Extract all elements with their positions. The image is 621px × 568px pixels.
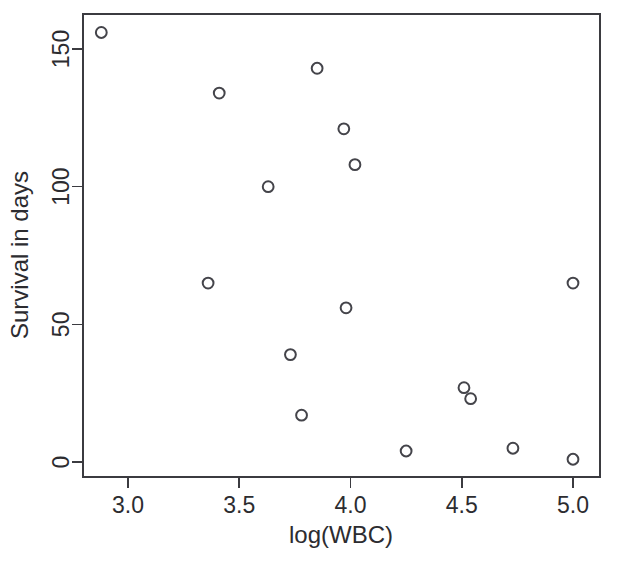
x-tick-label: 4.0: [335, 492, 367, 518]
data-point: [459, 382, 470, 393]
data-point: [296, 410, 307, 421]
axes-frame: [83, 14, 600, 477]
y-axis-ticks: [72, 49, 83, 462]
plot-canvas: 3.03.54.04.55.0 050100150 log(WBC) Survi…: [0, 0, 621, 568]
y-tick-label: 0: [48, 456, 74, 469]
data-point: [263, 181, 274, 192]
data-point: [338, 123, 349, 134]
data-point: [465, 393, 476, 404]
axes-frame-rect: [83, 14, 600, 477]
data-point: [568, 278, 579, 289]
y-tick-label: 50: [48, 312, 74, 338]
data-points-layer: [96, 27, 578, 465]
x-axis-ticks: [128, 477, 573, 488]
data-point: [312, 63, 323, 74]
data-point: [214, 88, 225, 99]
data-point: [96, 27, 107, 38]
x-axis-title: log(WBC): [289, 521, 393, 548]
x-tick-label: 4.5: [446, 492, 478, 518]
data-point: [341, 302, 352, 313]
data-point: [350, 159, 361, 170]
x-tick-label: 3.0: [112, 492, 144, 518]
x-axis-tick-labels: 3.03.54.04.55.0: [112, 492, 589, 518]
y-axis-title: Survival in days: [6, 171, 33, 339]
data-point: [285, 349, 296, 360]
data-point: [401, 446, 412, 457]
data-point: [508, 443, 519, 454]
y-tick-label: 150: [48, 30, 74, 68]
data-point: [568, 454, 579, 465]
x-tick-label: 5.0: [557, 492, 589, 518]
data-point: [203, 278, 214, 289]
y-tick-label: 100: [48, 167, 74, 205]
x-tick-label: 3.5: [223, 492, 255, 518]
y-axis-tick-labels: 050100150: [48, 30, 74, 469]
scatter-plot-figure: 3.03.54.04.55.0 050100150 log(WBC) Survi…: [0, 0, 621, 568]
